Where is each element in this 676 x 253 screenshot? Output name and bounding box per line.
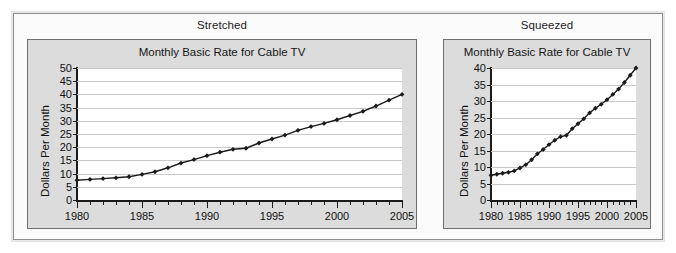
panel-squeezed: Squeezed Monthly Basic Rate for Cable TV… — [430, 14, 664, 239]
y-tick-label: 30 — [60, 115, 72, 126]
x-tick-mark-major — [77, 201, 78, 208]
y-tick-label: 25 — [474, 112, 486, 123]
x-tick-mark-minor — [246, 201, 247, 205]
x-tick-mark-minor — [90, 201, 91, 205]
x-tick-label: 2000 — [325, 211, 349, 222]
y-tick-label: 0 — [66, 195, 72, 206]
y-tick-label: 5 — [66, 181, 72, 192]
x-tick-mark-minor — [285, 201, 286, 205]
x-tick-mark-minor — [630, 201, 631, 205]
y-tick-label: 30 — [474, 96, 486, 107]
data-point-marker — [88, 177, 93, 182]
x-tick-mark-minor — [129, 201, 130, 205]
data-point-marker — [400, 92, 405, 97]
x-tick-mark-minor — [532, 201, 533, 205]
y-tick-label: 40 — [60, 89, 72, 100]
y-tick-label: 35 — [60, 102, 72, 113]
plot-area-stretched: 0510152025303540455019801985199019952000… — [77, 68, 402, 200]
data-point-marker — [218, 150, 223, 155]
x-tick-label: 2005 — [624, 211, 648, 222]
data-point-marker — [257, 141, 262, 146]
x-tick-mark-minor — [543, 201, 544, 205]
x-axis-spine — [490, 200, 637, 202]
x-tick-label: 2000 — [595, 211, 619, 222]
x-tick-mark-major — [520, 201, 521, 208]
x-axis-spine — [76, 200, 403, 202]
data-point-marker — [387, 98, 392, 103]
data-point-marker — [296, 128, 301, 133]
data-point-marker — [335, 117, 340, 122]
y-tick-label: 0 — [480, 195, 486, 206]
x-tick-mark-minor — [537, 201, 538, 205]
x-tick-label: 1980 — [479, 211, 503, 222]
x-tick-mark-minor — [503, 201, 504, 205]
y-tick-label: 10 — [60, 168, 72, 179]
x-tick-mark-minor — [181, 201, 182, 205]
plot-area-squeezed: 0510152025303540198019851990199520002005 — [491, 68, 636, 200]
data-point-marker — [361, 109, 366, 114]
x-tick-mark-minor — [233, 201, 234, 205]
x-tick-mark-minor — [103, 201, 104, 205]
y-tick-label: 50 — [60, 63, 72, 74]
x-tick-label: 2005 — [390, 211, 414, 222]
data-point-marker — [322, 121, 327, 126]
data-point-marker — [283, 133, 288, 138]
x-tick-mark-minor — [555, 201, 556, 205]
x-tick-label: 1995 — [566, 211, 590, 222]
x-tick-mark-major — [607, 201, 608, 208]
x-tick-mark-major — [337, 201, 338, 208]
y-tick-label: 40 — [474, 63, 486, 74]
data-point-marker — [205, 153, 210, 158]
x-tick-mark-minor — [526, 201, 527, 205]
x-tick-label: 1985 — [508, 211, 532, 222]
x-tick-label: 1995 — [260, 211, 284, 222]
chart-squeezed: Monthly Basic Rate for Cable TV Dollars … — [443, 39, 651, 229]
y-tick-label: 45 — [60, 76, 72, 87]
x-tick-mark-minor — [619, 201, 620, 205]
x-tick-mark-minor — [298, 201, 299, 205]
x-tick-mark-major — [636, 201, 637, 208]
x-tick-mark-minor — [514, 201, 515, 205]
data-point-marker — [101, 176, 106, 181]
x-tick-label: 1990 — [195, 211, 219, 222]
figure-container: Stretched Monthly Basic Rate for Cable T… — [13, 13, 663, 240]
data-point-marker — [127, 174, 132, 179]
x-tick-mark-minor — [572, 201, 573, 205]
y-tick-label: 35 — [474, 79, 486, 90]
x-tick-mark-major — [402, 201, 403, 208]
data-point-marker — [231, 147, 236, 152]
data-point-marker — [494, 172, 499, 177]
chart-title-squeezed: Monthly Basic Rate for Cable TV — [444, 46, 650, 58]
panel-stretched: Stretched Monthly Basic Rate for Cable T… — [14, 14, 430, 239]
x-tick-mark-major — [578, 201, 579, 208]
x-tick-mark-minor — [311, 201, 312, 205]
x-tick-mark-minor — [590, 201, 591, 205]
y-tick-label: 10 — [474, 162, 486, 173]
data-point-marker — [179, 161, 184, 166]
data-point-marker — [506, 170, 511, 175]
x-tick-mark-minor — [259, 201, 260, 205]
data-point-marker — [512, 169, 517, 174]
x-tick-mark-minor — [324, 201, 325, 205]
x-tick-mark-minor — [561, 201, 562, 205]
x-tick-mark-minor — [350, 201, 351, 205]
x-tick-mark-minor — [595, 201, 596, 205]
panel-label-stretched: Stretched — [14, 19, 430, 31]
x-tick-mark-major — [549, 201, 550, 208]
x-tick-label: 1985 — [130, 211, 154, 222]
x-tick-mark-major — [142, 201, 143, 208]
x-tick-mark-minor — [566, 201, 567, 205]
data-point-marker — [374, 104, 379, 109]
x-tick-mark-major — [491, 201, 492, 208]
y-axis-label-stretched: Dollars Per Month — [39, 91, 51, 211]
x-tick-mark-minor — [220, 201, 221, 205]
data-point-marker — [140, 172, 145, 177]
x-tick-mark-minor — [389, 201, 390, 205]
x-tick-label: 1980 — [65, 211, 89, 222]
y-tick-label: 15 — [474, 145, 486, 156]
series-line — [77, 68, 402, 200]
x-tick-label: 1990 — [537, 211, 561, 222]
y-axis-label-squeezed: Dollars Per Month — [458, 91, 470, 211]
data-point-marker — [244, 146, 249, 151]
x-tick-mark-minor — [601, 201, 602, 205]
